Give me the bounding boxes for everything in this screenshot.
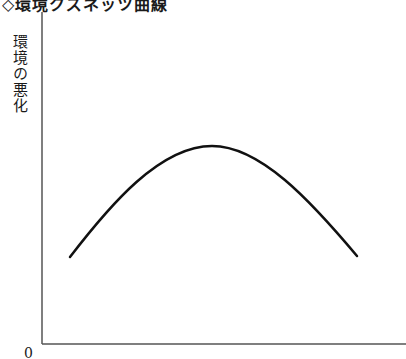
kuznets-curve [70, 146, 357, 257]
y-axis-label: 環境の悪化 [8, 34, 28, 114]
chart-plot [0, 0, 406, 359]
origin-label: 0 [24, 345, 33, 359]
